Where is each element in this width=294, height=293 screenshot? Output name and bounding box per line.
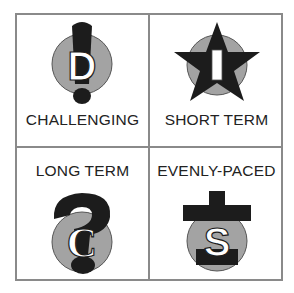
star-icon (150, 14, 283, 114)
exclamation-icon: D (16, 14, 149, 114)
quadrant-label: SHORT TERM (150, 111, 283, 129)
quadrant-label: LONG TERM (16, 162, 149, 180)
quadrant-label: CHALLENGING (16, 111, 149, 129)
quadrant-evenly-paced: EVENLY-PACED S (150, 148, 283, 281)
svg-text:D: D (68, 44, 97, 88)
svg-text:C: C (67, 220, 97, 266)
quadrant-short-term: SHORT TERM (150, 14, 283, 147)
quadrant-label: EVENLY-PACED (150, 162, 283, 180)
quadrant-challenging: D CHALLENGING (16, 14, 149, 147)
svg-text:S: S (204, 220, 231, 264)
plus-icon: S (150, 181, 283, 281)
quadrant-long-term: LONG TERM C (16, 148, 149, 281)
question-icon: C (16, 181, 149, 281)
